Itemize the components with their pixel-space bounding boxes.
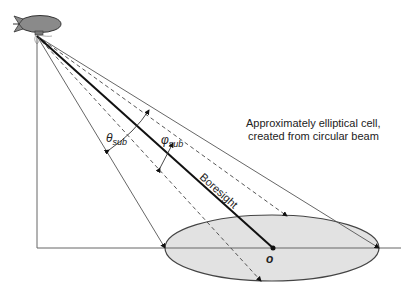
boresight-label: Boresight [198,171,241,211]
theta-label: θsub [106,131,127,147]
origin-label: o [266,252,273,266]
phi-label: φsub [161,133,183,149]
annotation-line1: Approximately elliptical cell, [246,117,381,129]
beam-outer-left [37,36,165,248]
beam-footprint-diagram: θsub φsub Boresight o Approximately elli… [0,0,420,300]
annotation-line2: created from circular beam [248,130,379,142]
origin-point [271,246,276,251]
beam-outer-right [37,36,379,248]
beam-dashed-left [37,36,261,281]
boresight-line [37,36,273,248]
